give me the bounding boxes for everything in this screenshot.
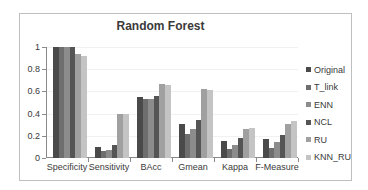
bar-knn-ru — [249, 128, 255, 158]
x-tick-label: Gmean — [178, 162, 208, 172]
bar-knn-ru — [291, 121, 297, 158]
x-tick-mark — [130, 158, 131, 162]
bar-group — [95, 47, 129, 158]
x-tick-mark — [298, 158, 299, 162]
legend-item: ENN — [306, 96, 351, 114]
legend-label: T_link — [314, 82, 338, 92]
legend-label: KNN_RU — [314, 152, 351, 162]
y-tick-mark — [42, 136, 46, 137]
bar-knn-ru — [123, 114, 129, 158]
legend-swatch-icon — [306, 85, 311, 90]
x-tick-mark — [214, 158, 215, 162]
bar-group — [53, 47, 87, 158]
legend-item: NCL — [306, 114, 351, 132]
bar-knn-ru — [165, 85, 171, 158]
legend-item: Original — [306, 61, 351, 79]
legend-swatch-icon — [306, 155, 311, 160]
x-tick-label: BAcc — [140, 162, 161, 172]
y-tick-mark — [42, 47, 46, 48]
legend: OriginalT_linkENNNCLRUKNN_RU — [306, 61, 351, 166]
legend-label: Original — [314, 65, 345, 75]
y-tick-label: 0 — [35, 153, 40, 163]
legend-item: T_link — [306, 79, 351, 97]
chart-title: Random Forest — [20, 19, 351, 33]
bar-group — [221, 47, 255, 158]
x-tick-label: F-Measure — [255, 162, 299, 172]
chart-frame: Random Forest 00.20.40.60.81SpecificityS… — [19, 13, 352, 181]
bar-group — [263, 47, 297, 158]
legend-swatch-icon — [306, 137, 311, 142]
legend-item: RU — [306, 131, 351, 149]
legend-swatch-icon — [306, 102, 311, 107]
x-tick-mark — [172, 158, 173, 162]
y-tick-label: 0.6 — [27, 86, 40, 96]
bar-knn-ru — [207, 90, 213, 158]
y-tick-label: 0.4 — [27, 109, 40, 119]
y-axis — [46, 47, 47, 158]
bar-group — [179, 47, 213, 158]
x-tick-label: Kappa — [222, 162, 248, 172]
y-tick-mark — [42, 158, 46, 159]
y-tick-label: 0.2 — [27, 131, 40, 141]
legend-label: NCL — [314, 117, 332, 127]
bar-knn-ru — [81, 56, 87, 158]
plot-area: 00.20.40.60.81SpecificitySensitivityBAcc… — [46, 47, 298, 158]
legend-item: KNN_RU — [306, 149, 351, 167]
legend-swatch-icon — [306, 120, 311, 125]
bar-group — [137, 47, 171, 158]
y-tick-mark — [42, 69, 46, 70]
y-tick-label: 1 — [35, 42, 40, 52]
y-tick-label: 0.8 — [27, 64, 40, 74]
legend-swatch-icon — [306, 67, 311, 72]
x-tick-label: Specificity — [47, 162, 88, 172]
y-tick-mark — [42, 91, 46, 92]
x-tick-label: Sensitivity — [89, 162, 130, 172]
y-tick-mark — [42, 114, 46, 115]
legend-label: RU — [314, 135, 327, 145]
legend-label: ENN — [314, 100, 333, 110]
